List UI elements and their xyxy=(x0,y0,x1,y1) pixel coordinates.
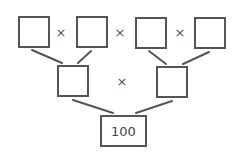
top-box-2[interactable] xyxy=(76,16,108,48)
multiply-sign: × xyxy=(55,26,67,39)
connector-line xyxy=(73,100,113,113)
connector-line xyxy=(183,52,209,64)
connector-line xyxy=(149,51,166,64)
result-box: 100 xyxy=(100,115,147,147)
top-box-3[interactable] xyxy=(135,17,167,49)
middle-box-1[interactable] xyxy=(57,65,89,97)
connector-line xyxy=(136,101,172,113)
connector-line xyxy=(32,50,62,63)
multiply-sign: × xyxy=(116,75,128,88)
factor-tree-diagram: × × × × 100 xyxy=(0,0,239,155)
multiply-sign: × xyxy=(114,26,126,39)
top-box-1[interactable] xyxy=(18,16,50,48)
middle-box-2[interactable] xyxy=(156,66,188,98)
top-box-4[interactable] xyxy=(194,17,226,49)
connector-line xyxy=(78,51,91,63)
multiply-sign: × xyxy=(174,26,186,39)
